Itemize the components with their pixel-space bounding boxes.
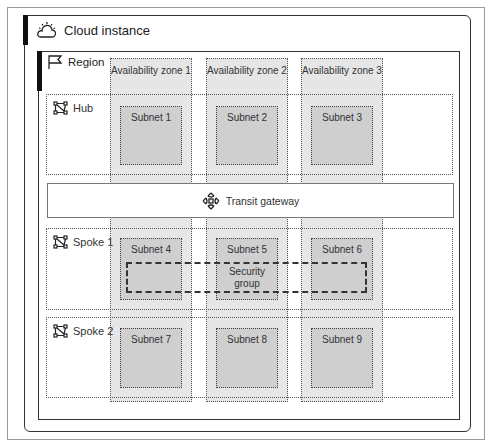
- transit-gateway: Transit gateway: [47, 183, 454, 218]
- region-title: Region: [68, 56, 104, 68]
- flag-icon: [47, 54, 63, 70]
- region-accent-bar: [37, 51, 42, 91]
- subnet-1: Subnet 1: [120, 106, 182, 165]
- row-header: Spoke 1: [53, 235, 113, 249]
- cloud-instance-title: Cloud instance: [64, 23, 150, 38]
- security-group-label: Security group: [200, 266, 294, 290]
- subnet-label: Subnet 8: [217, 334, 277, 345]
- row-label: Hub: [73, 102, 93, 114]
- subnet-label: Subnet 7: [121, 334, 181, 345]
- row-label: Spoke 2: [73, 325, 113, 337]
- subnet-3: Subnet 3: [311, 106, 373, 165]
- row-header: Spoke 2: [53, 324, 113, 338]
- subnet-9: Subnet 9: [311, 328, 373, 388]
- az-label: Availability zone 2: [207, 65, 287, 77]
- az-label: Availability zone 3: [302, 65, 382, 77]
- network-icon: [53, 101, 68, 115]
- region-header: Region: [47, 54, 104, 70]
- row-label: Spoke 1: [73, 236, 113, 248]
- cloud-accent-bar: [23, 15, 28, 45]
- subnet-label: Subnet 6: [312, 244, 372, 255]
- cloud-instance-header: Cloud instance: [36, 15, 150, 45]
- subnet-2: Subnet 2: [216, 106, 278, 165]
- subnet-label: Subnet 2: [217, 112, 277, 123]
- transit-gateway-icon: [202, 192, 220, 210]
- subnet-label: Subnet 5: [217, 244, 277, 255]
- transit-gateway-label: Transit gateway: [226, 195, 300, 207]
- network-icon: [53, 235, 68, 249]
- security-group-text: Security group: [222, 266, 272, 290]
- az-label: Availability zone 1: [111, 65, 191, 77]
- cloud-sun-icon: [36, 21, 58, 39]
- row-header: Hub: [53, 101, 93, 115]
- subnet-label: Subnet 1: [121, 112, 181, 123]
- subnet-label: Subnet 4: [121, 244, 181, 255]
- subnet-label: Subnet 3: [312, 112, 372, 123]
- subnet-7: Subnet 7: [120, 328, 182, 388]
- subnet-label: Subnet 9: [312, 334, 372, 345]
- subnet-8: Subnet 8: [216, 328, 278, 388]
- network-icon: [53, 324, 68, 338]
